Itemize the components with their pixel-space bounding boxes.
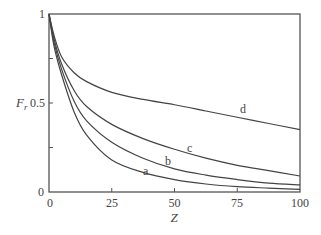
curve-label-a: a xyxy=(143,164,149,178)
x-tick-25: 25 xyxy=(106,196,118,210)
curve-d xyxy=(49,14,300,130)
curve-label-d: d xyxy=(240,102,246,116)
x-tick-75: 75 xyxy=(231,196,243,210)
x-axis-title: Z xyxy=(170,210,178,225)
curve-c xyxy=(49,14,300,176)
curve-b xyxy=(49,14,300,185)
curve-label-b: b xyxy=(165,154,171,168)
curve-label-c: c xyxy=(187,141,192,155)
x-tick-50: 50 xyxy=(169,196,181,210)
curve-a xyxy=(49,14,300,189)
plot-frame xyxy=(49,14,300,192)
chart: 0 0.5 1 Fr 0 25 50 75 100 Z a b c d xyxy=(0,0,321,235)
y-axis-title: Fr xyxy=(15,95,28,112)
y-tick-0-5: 0.5 xyxy=(30,96,45,110)
curves xyxy=(49,14,300,189)
x-tick-100: 100 xyxy=(291,196,309,210)
x-tick-0: 0 xyxy=(47,196,53,210)
y-tick-1: 1 xyxy=(39,7,45,21)
y-tick-0: 0 xyxy=(38,185,44,199)
